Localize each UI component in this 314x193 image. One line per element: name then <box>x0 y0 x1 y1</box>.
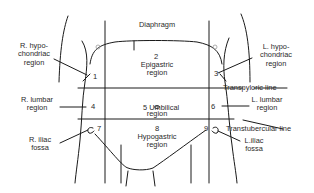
region-3-number: 3 <box>214 70 218 78</box>
region-1-number: 1 <box>93 73 97 81</box>
body-outline-left-inner <box>75 41 87 183</box>
region-7-number: 7 <box>97 125 101 133</box>
region-4-number: 4 <box>91 103 95 111</box>
region-3-label: L. hypo- chondriac region <box>254 43 298 68</box>
penis-outline-left <box>126 171 128 186</box>
region-4-label: R. lumbar region <box>14 96 60 113</box>
region-9-number: 9 <box>204 125 208 133</box>
leader-l-hypochondriac <box>218 58 252 73</box>
abdominal-regions-diagram: Diaphragm R. hypo- chondriac region 1 2 … <box>0 0 314 193</box>
region-9-label: L.iliac fossa <box>236 137 272 154</box>
transpyloric-line-label: Transpyloric line <box>223 84 277 92</box>
region-6-label: L. lumbar region <box>245 96 289 113</box>
body-outline-right-upper <box>241 14 250 82</box>
left-iliac-hook <box>212 127 218 133</box>
region-1-label: R. hypo- chondriac region <box>12 42 56 67</box>
body-outline-right-cross <box>220 74 226 81</box>
penis-outline-right <box>153 171 155 186</box>
left-nipple-marker <box>213 45 217 49</box>
region-7-label: R. iliac fossa <box>19 136 61 153</box>
leader-r-iliac <box>60 130 88 143</box>
right-iliac-hook <box>88 127 94 133</box>
transtubercular-line-label: Transtubercular line <box>226 125 291 133</box>
body-outline-right-inner <box>224 38 237 183</box>
region-2-label: Epigastric region <box>133 61 181 78</box>
diaphragm-label: Diaphragm <box>137 21 177 29</box>
body-outline-left-upper <box>59 16 68 82</box>
region-8-label: Hypogastric region <box>131 133 183 150</box>
region-5-region-word: region <box>138 110 176 118</box>
region-6-number: 6 <box>211 103 215 111</box>
